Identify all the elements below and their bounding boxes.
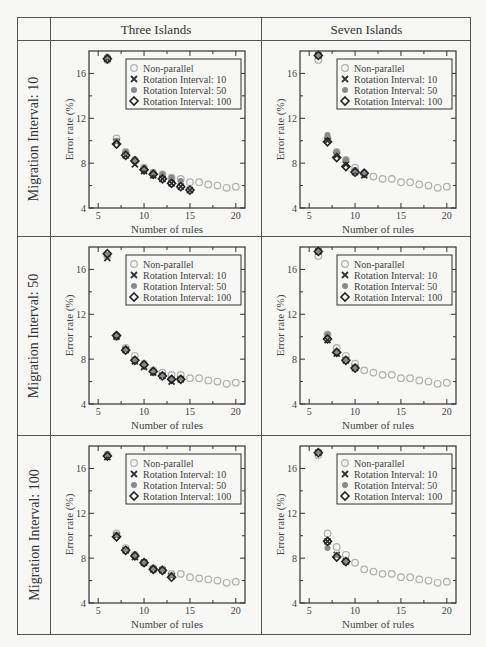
svg-text:10: 10 (139, 605, 149, 616)
svg-text:Rotation Interval: 100: Rotation Interval: 100 (354, 292, 442, 303)
svg-text:Rotation Interval: 10: Rotation Interval: 10 (354, 270, 437, 281)
svg-text:10: 10 (350, 406, 360, 417)
svg-text:8: 8 (81, 158, 86, 169)
scatter-plot: 5101520481216Number of rulesError rate (… (262, 41, 472, 239)
svg-text:20: 20 (442, 406, 452, 417)
svg-text:20: 20 (442, 210, 452, 221)
svg-text:Number of rules: Number of rules (342, 223, 414, 235)
svg-text:16: 16 (76, 264, 86, 275)
svg-text:Error rate (%): Error rate (%) (63, 98, 76, 160)
svg-text:Rotation Interval: 50: Rotation Interval: 50 (354, 480, 437, 491)
svg-text:16: 16 (76, 68, 86, 79)
svg-text:16: 16 (76, 463, 86, 474)
svg-text:20: 20 (231, 406, 241, 417)
figure-table: Three Islands Seven Islands Migration In… (17, 17, 471, 635)
svg-text:15: 15 (396, 210, 406, 221)
svg-text:Rotation Interval: 50: Rotation Interval: 50 (143, 281, 226, 292)
row-header-migration-50: Migration Interval: 50 (18, 237, 51, 435)
svg-text:Non-parallel: Non-parallel (143, 63, 194, 74)
svg-text:8: 8 (292, 158, 297, 169)
chart-seven-islands-migration-10: 5101520481216Number of rulesError rate (… (262, 41, 472, 239)
svg-text:Rotation Interval: 50: Rotation Interval: 50 (143, 85, 226, 96)
svg-text:10: 10 (139, 406, 149, 417)
row-header-label: Migration Interval: 100 (27, 469, 43, 600)
svg-text:8: 8 (292, 354, 297, 365)
svg-text:4: 4 (81, 399, 86, 410)
svg-text:16: 16 (287, 463, 297, 474)
column-header-seven-islands: Seven Islands (262, 18, 471, 40)
svg-text:15: 15 (396, 605, 406, 616)
chart-seven-islands-migration-50: 5101520481216Number of rulesError rate (… (262, 237, 472, 435)
svg-text:Rotation Interval: 10: Rotation Interval: 10 (143, 74, 226, 85)
svg-text:20: 20 (231, 210, 241, 221)
scatter-plot: 5101520481216Number of rulesError rate (… (51, 41, 261, 239)
svg-text:Error rate (%): Error rate (%) (63, 294, 76, 356)
chart-seven-islands-migration-100: 5101520481216Number of rulesError rate (… (262, 436, 472, 634)
svg-text:Error rate (%): Error rate (%) (63, 493, 76, 555)
svg-text:4: 4 (292, 203, 297, 214)
svg-text:5: 5 (307, 406, 312, 417)
svg-text:Error rate (%): Error rate (%) (274, 493, 287, 555)
svg-text:10: 10 (350, 210, 360, 221)
svg-text:Rotation Interval: 10: Rotation Interval: 10 (143, 469, 226, 480)
svg-text:5: 5 (307, 210, 312, 221)
svg-text:12: 12 (287, 309, 297, 320)
svg-text:Error rate (%): Error rate (%) (274, 98, 287, 160)
svg-text:4: 4 (81, 598, 86, 609)
svg-text:20: 20 (442, 605, 452, 616)
svg-text:15: 15 (185, 406, 195, 417)
svg-text:12: 12 (287, 113, 297, 124)
svg-text:10: 10 (139, 210, 149, 221)
row-header-migration-100: Migration Interval: 100 (18, 436, 51, 634)
svg-text:12: 12 (76, 113, 86, 124)
svg-text:Rotation Interval: 10: Rotation Interval: 10 (143, 270, 226, 281)
svg-text:8: 8 (292, 553, 297, 564)
svg-text:12: 12 (76, 508, 86, 519)
row-header-migration-10: Migration Interval: 10 (18, 41, 51, 236)
svg-text:Rotation Interval: 50: Rotation Interval: 50 (143, 480, 226, 491)
svg-text:Number of rules: Number of rules (342, 618, 414, 630)
svg-text:15: 15 (185, 605, 195, 616)
scatter-plot: 5101520481216Number of rulesError rate (… (262, 436, 472, 634)
svg-text:15: 15 (185, 210, 195, 221)
svg-text:5: 5 (96, 406, 101, 417)
row-header-label: Migration Interval: 50 (27, 274, 43, 398)
svg-text:5: 5 (96, 210, 101, 221)
svg-text:Non-parallel: Non-parallel (354, 259, 405, 270)
chart-three-islands-migration-100: 5101520481216Number of rulesError rate (… (51, 436, 261, 634)
scatter-plot: 5101520481216Number of rulesError rate (… (51, 237, 261, 435)
svg-text:Rotation Interval: 10: Rotation Interval: 10 (354, 469, 437, 480)
svg-text:16: 16 (287, 264, 297, 275)
svg-text:12: 12 (76, 309, 86, 320)
svg-text:Rotation Interval: 10: Rotation Interval: 10 (354, 74, 437, 85)
svg-text:Rotation Interval: 50: Rotation Interval: 50 (354, 85, 437, 96)
svg-text:Number of rules: Number of rules (131, 419, 203, 431)
svg-text:20: 20 (231, 605, 241, 616)
svg-text:Number of rules: Number of rules (131, 618, 203, 630)
svg-text:Number of rules: Number of rules (131, 223, 203, 235)
svg-text:Rotation Interval: 100: Rotation Interval: 100 (143, 292, 231, 303)
chart-three-islands-migration-10: 5101520481216Number of rulesError rate (… (51, 41, 261, 239)
svg-text:16: 16 (287, 68, 297, 79)
svg-text:10: 10 (350, 605, 360, 616)
svg-text:Rotation Interval: 100: Rotation Interval: 100 (354, 96, 442, 107)
chart-three-islands-migration-50: 5101520481216Number of rulesError rate (… (51, 237, 261, 435)
svg-text:4: 4 (292, 399, 297, 410)
svg-text:5: 5 (307, 605, 312, 616)
svg-text:8: 8 (81, 553, 86, 564)
svg-text:Non-parallel: Non-parallel (354, 63, 405, 74)
scatter-plot: 5101520481216Number of rulesError rate (… (262, 237, 472, 435)
svg-text:Rotation Interval: 50: Rotation Interval: 50 (354, 281, 437, 292)
svg-text:Rotation Interval: 100: Rotation Interval: 100 (143, 96, 231, 107)
svg-text:4: 4 (292, 598, 297, 609)
svg-text:8: 8 (81, 354, 86, 365)
svg-text:15: 15 (396, 406, 406, 417)
svg-text:Number of rules: Number of rules (342, 419, 414, 431)
svg-text:Error rate (%): Error rate (%) (274, 294, 287, 356)
svg-text:Non-parallel: Non-parallel (143, 458, 194, 469)
svg-text:5: 5 (96, 605, 101, 616)
svg-text:Rotation Interval: 100: Rotation Interval: 100 (354, 491, 442, 502)
svg-text:Rotation Interval: 100: Rotation Interval: 100 (143, 491, 231, 502)
svg-text:12: 12 (287, 508, 297, 519)
svg-text:Non-parallel: Non-parallel (354, 458, 405, 469)
